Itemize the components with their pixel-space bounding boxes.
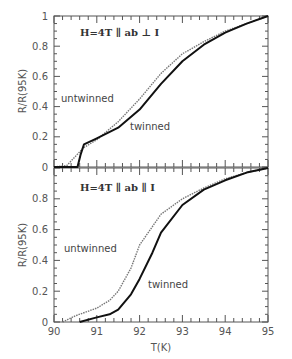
top-twinned-label: twinned (130, 121, 170, 132)
x-tick-label: 94 (219, 326, 232, 337)
chart-frame (54, 16, 268, 322)
y-tick-label: 0 (42, 162, 48, 173)
top-panel-annotation: H=4T ∥ ab ⊥ I (80, 27, 160, 38)
x-tick-label: 90 (48, 326, 61, 337)
x-tick-label: 93 (176, 326, 189, 337)
y-tick-label: 0.6 (32, 71, 48, 82)
top-y-axis-label: R/R(95K) (17, 69, 28, 113)
y-tick-label: 0.6 (32, 224, 48, 235)
x-tick-label: 95 (262, 326, 275, 337)
x-tick-label: 91 (90, 326, 103, 337)
y-tick-label: 1 (42, 11, 48, 22)
y-tick-label: 0.8 (32, 193, 48, 204)
bottom-untwinned-label: untwinned (64, 243, 117, 254)
y-tick-label: 0.2 (32, 131, 48, 142)
y-tick-label: 0.4 (32, 255, 48, 266)
twinned-curve (54, 16, 268, 167)
bottom-panel-annotation: H=4T ∥ ab ∥ I (80, 182, 155, 193)
y-tick-label: 0.4 (32, 101, 48, 112)
resistance-chart: 00.20.40.60.8100.20.40.60.8909192939495 … (0, 0, 292, 359)
x-axis-label: T(K) (150, 342, 172, 353)
y-tick-label: 0.8 (32, 41, 48, 52)
data-series (54, 16, 268, 322)
bottom-y-axis-label: R/R(95K) (17, 223, 28, 267)
x-tick-label: 92 (133, 326, 146, 337)
bottom-twinned-label: twinned (148, 279, 188, 290)
y-tick-label: 0.2 (32, 286, 48, 297)
top-untwinned-label: untwinned (61, 93, 114, 104)
